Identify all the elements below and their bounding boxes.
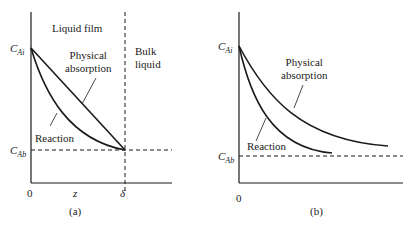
panel-b-physical-line1: Physical xyxy=(286,56,323,68)
panel-b-physical-line2: absorption xyxy=(281,69,327,81)
panel-b-physical-label: Physical absorption xyxy=(281,56,327,82)
panel-a-reaction-label: Reaction xyxy=(35,132,74,144)
panel-a-z-label: z xyxy=(73,187,77,199)
panel-a-film-label: Liquid film xyxy=(52,22,102,34)
panel-a-cai-label: CAi xyxy=(10,42,24,59)
panel-b-graphics xyxy=(239,12,403,183)
panel-a-origin-label: 0 xyxy=(27,187,33,199)
panel-a-physical-line1: Physical xyxy=(70,49,107,61)
panel-a-bulk-label: Bulk liquid xyxy=(135,45,161,71)
panel-a-physical-line2: absorption xyxy=(65,62,111,74)
panel-b-cab-sub: Ab xyxy=(225,156,234,165)
panel-a-bulk-line1: Bulk xyxy=(135,45,156,57)
panel-a-physical-label: Physical absorption xyxy=(65,49,111,75)
panel-b-cab-label: CAb xyxy=(218,150,234,167)
panel-a-delta-label: δ xyxy=(120,187,125,199)
panel-a-cai-sub: Ai xyxy=(17,48,24,57)
panel-b-reaction-leader-line xyxy=(256,118,266,141)
panel-b-cai-sub: Ai xyxy=(225,46,232,55)
panel-a-physical-leader-line xyxy=(82,78,96,104)
panel-b-cai-label: CAi xyxy=(218,40,232,57)
panel-b-reaction-label: Reaction xyxy=(247,140,286,152)
panel-a-caption: (a) xyxy=(69,205,81,217)
panel-b-physical-leader-line xyxy=(294,85,303,108)
panel-b-origin-label: 0 xyxy=(236,192,242,204)
panel-a-reaction-leader-line xyxy=(50,113,57,126)
panel-a-bulk-line2: liquid xyxy=(135,58,161,70)
panel-a-graphics xyxy=(31,12,172,192)
panel-a-cab-sub: Ab xyxy=(17,150,26,159)
panel-b-caption: (b) xyxy=(310,205,323,217)
panel-a-cab-label: CAb xyxy=(10,144,26,161)
